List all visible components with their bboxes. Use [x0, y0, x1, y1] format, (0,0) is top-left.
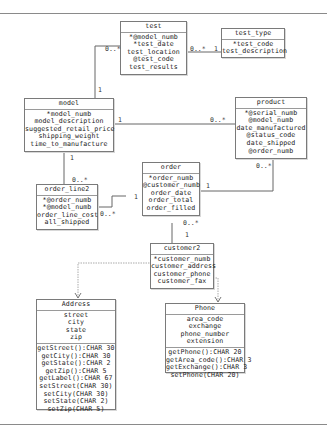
- multiplicity-label: 0..*: [105, 45, 121, 53]
- attribute: all_shipped: [37, 219, 97, 227]
- multiplicity-label: 1: [214, 45, 218, 53]
- multiplicity-label: 1: [185, 231, 189, 239]
- entity-title: order_line2: [37, 185, 97, 196]
- entity-test[interactable]: test *@model_numb *test_date test_locati…: [120, 21, 187, 75]
- multiplicity-label: 1: [98, 86, 102, 94]
- entity-title: product: [236, 98, 306, 109]
- attribute: test_description: [222, 48, 284, 56]
- multiplicity-label: 0..*: [183, 219, 199, 227]
- multiplicity-label: 0..*: [190, 45, 206, 53]
- entity-title: test: [121, 22, 186, 33]
- multiplicity-label: 1: [134, 193, 138, 201]
- entity-customer2[interactable]: customer2 *customer_numb customer_addres…: [150, 243, 214, 289]
- multiplicity-label: 1: [206, 182, 210, 190]
- entity-product[interactable]: product *@serial_numb @model_numb date_m…: [235, 97, 307, 159]
- multiplicity-label: 0..*: [210, 116, 226, 124]
- class-address[interactable]: Address street city state zip getStreet(…: [36, 299, 116, 410]
- class-title: Phone: [166, 304, 244, 315]
- attribute: zip: [37, 334, 115, 342]
- attribute: customer_fax: [151, 278, 213, 286]
- entity-title: customer2: [151, 244, 213, 255]
- class-phone[interactable]: Phone area_code exchange phone_number ex…: [165, 303, 245, 373]
- entity-title: test_type: [222, 29, 284, 40]
- entity-order[interactable]: order *order_numb @customer_numb order_d…: [142, 162, 200, 216]
- entity-title: order: [143, 163, 199, 174]
- attribute: extension: [166, 338, 244, 346]
- attribute: @order_numb: [236, 148, 306, 156]
- multiplicity-label: 0..*: [100, 210, 116, 218]
- method: setPhone(CHAR 20): [166, 372, 244, 380]
- entity-title: model: [25, 99, 113, 110]
- entity-order-line2[interactable]: order_line2 *@order_numb *@model_numb or…: [36, 184, 98, 230]
- multiplicity-label: 0..*: [256, 162, 272, 170]
- attribute: order_filled: [143, 205, 199, 213]
- entity-model[interactable]: model *model_numb model_description sugg…: [24, 98, 114, 152]
- multiplicity-label: 0..*: [72, 176, 88, 184]
- attribute: test_results: [121, 64, 186, 72]
- attribute: time_to_manufacture: [25, 141, 113, 149]
- class-title: Address: [37, 300, 115, 311]
- multiplicity-label: 1: [118, 116, 122, 124]
- multiplicity-label: 1: [70, 154, 74, 162]
- entity-test-type[interactable]: test_type *test_code test_description: [221, 28, 285, 58]
- method: setZip(CHAR 5): [37, 406, 115, 414]
